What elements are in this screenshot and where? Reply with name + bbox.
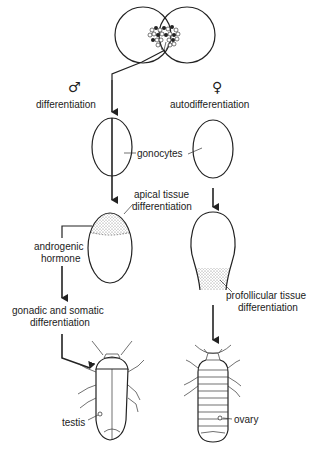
female-larva-figure bbox=[184, 345, 241, 442]
hormone-connector bbox=[62, 226, 92, 238]
gonocytes-leader-right bbox=[188, 148, 202, 154]
hormone-label: hormone bbox=[41, 253, 81, 264]
male-arrow-4 bbox=[62, 334, 90, 368]
testis-marker bbox=[98, 412, 102, 416]
germ-cell-cluster bbox=[148, 25, 180, 50]
gonocytes-label: gonocytes bbox=[137, 148, 183, 159]
male-beetle-figure bbox=[78, 341, 144, 440]
gonadic-somatic-label-line1: gonadic and somatic bbox=[12, 305, 104, 316]
male-symbol: ♂ bbox=[68, 79, 81, 95]
lineage-connector bbox=[112, 50, 165, 80]
female-symbol: ♀ bbox=[212, 79, 222, 95]
profollicular-stipple bbox=[190, 268, 240, 292]
profollicular-label-line2: differentiation bbox=[238, 302, 298, 313]
sex-differentiation-diagram: ♂ differentiation ♀ autodifferentiation … bbox=[0, 0, 322, 452]
female-autodifferentiation-label: autodifferentiation bbox=[170, 99, 249, 110]
testis-label: testis bbox=[62, 417, 85, 428]
ovary-label: ovary bbox=[234, 414, 258, 425]
apical-tissue-label-line2: differentiation bbox=[132, 201, 192, 212]
gonadic-somatic-label-line2: differentiation bbox=[30, 317, 90, 328]
androgenic-label: androgenic bbox=[34, 241, 83, 252]
male-differentiation-label: differentiation bbox=[36, 99, 96, 110]
profollicular-label-line1: profollicular tissue bbox=[226, 290, 306, 301]
embryo-figure bbox=[112, 7, 215, 80]
apical-tissue-stipple bbox=[86, 212, 134, 234]
ovary-marker bbox=[218, 416, 222, 420]
male-gonad-figure bbox=[86, 212, 134, 283]
apical-tissue-label-line1: apical tissue bbox=[134, 189, 189, 200]
female-gonad-figure bbox=[190, 212, 240, 292]
